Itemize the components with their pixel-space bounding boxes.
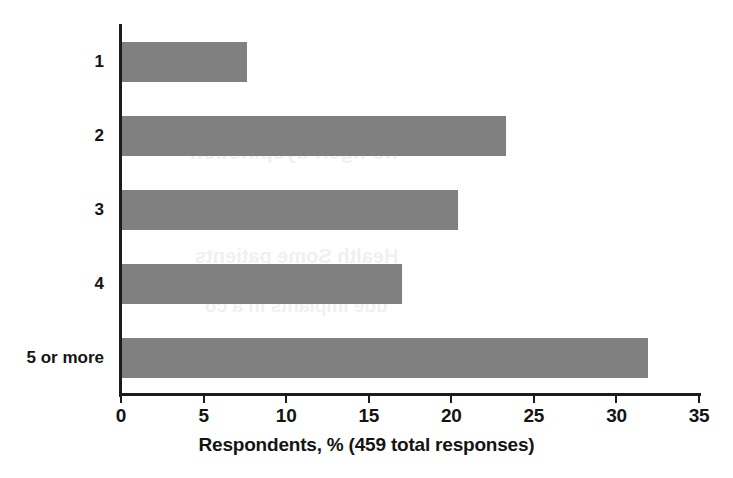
x-axis-tick: [120, 396, 122, 403]
x-axis-tick-label: 20: [421, 405, 481, 427]
y-tick-label-cell: 5 or more: [0, 321, 112, 395]
y-tick-label-cell: 2: [0, 99, 112, 173]
bar-chart: no figeri dyspinotion Health Some patien…: [0, 0, 733, 478]
plot-area: [121, 25, 699, 395]
y-tick-label-5: 5 or more: [27, 348, 104, 368]
x-axis-tick: [698, 396, 700, 403]
x-axis-tick-label: 10: [256, 405, 316, 427]
bar-category-4: [121, 264, 402, 304]
y-axis-line: [119, 24, 122, 397]
bar-band: [121, 247, 699, 321]
bar-category-1: [121, 42, 247, 82]
bar-band: [121, 321, 699, 395]
bar-category-2: [121, 116, 506, 156]
x-axis-tick: [615, 396, 617, 403]
bar-category-3: [121, 190, 458, 230]
y-tick-label-3: 3: [95, 200, 104, 220]
y-tick-label-cell: 4: [0, 247, 112, 321]
x-axis-tick-label: 25: [504, 405, 564, 427]
x-axis-title: Respondents, % (459 total responses): [0, 434, 733, 456]
x-axis-tick: [203, 396, 205, 403]
bar-band: [121, 173, 699, 247]
bar-band: [121, 99, 699, 173]
x-axis-tick: [450, 396, 452, 403]
bar-category-5-or-more: [121, 338, 648, 378]
x-axis-tick-label: 35: [669, 405, 729, 427]
x-axis-tick-label: 0: [91, 405, 151, 427]
y-tick-label-4: 4: [95, 274, 104, 294]
y-tick-label-1: 1: [95, 52, 104, 72]
x-axis-line: [119, 393, 701, 396]
x-axis-tick: [368, 396, 370, 403]
y-tick-label-cell: 3: [0, 173, 112, 247]
x-axis-tick-label: 5: [174, 405, 234, 427]
y-tick-label-2: 2: [95, 126, 104, 146]
x-axis-tick-label: 15: [339, 405, 399, 427]
x-axis-tick: [285, 396, 287, 403]
x-axis-tick-label: 30: [586, 405, 646, 427]
bar-band: [121, 25, 699, 99]
y-tick-label-cell: 1: [0, 25, 112, 99]
x-axis-tick: [533, 396, 535, 403]
